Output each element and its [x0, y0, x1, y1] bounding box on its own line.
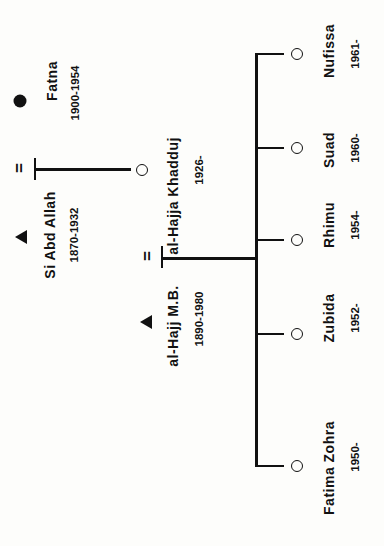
child-branch-rhimu — [256, 239, 284, 241]
child-name-fatima-zohra: Fatima Zohra — [321, 421, 337, 515]
person-dates-khadduj: 1926- — [193, 155, 205, 184]
male-symbol-si-abd-allah — [15, 230, 27, 244]
female-deceased-symbol-fatna — [14, 95, 27, 108]
person-name-si-abd-allah: Si Abd Allah — [42, 191, 58, 278]
child-branch-zubida — [256, 333, 284, 335]
child-dates-suad: 1960- — [349, 133, 361, 162]
descent-line-gen1 — [35, 168, 131, 171]
person-dates-al-hajj: 1890-1980 — [193, 292, 205, 347]
person-dates-si-abd-allah: 1870-1932 — [68, 208, 80, 263]
child-branch-nufissa — [256, 53, 284, 55]
female-symbol-khadduj — [136, 164, 148, 176]
female-symbol-nufissa — [291, 48, 303, 60]
child-dates-zubida: 1952- — [349, 303, 361, 332]
marriage-symbol-gen1: = — [10, 163, 30, 173]
male-symbol-al-hajj — [140, 315, 152, 329]
sibling-bar — [255, 53, 258, 467]
female-symbol-rhimu — [291, 234, 303, 246]
person-name-khadduj: al-Hajja Khadduj — [165, 137, 181, 255]
child-name-rhimu: Rhimu — [321, 202, 337, 248]
child-name-suad: Suad — [321, 132, 337, 168]
female-symbol-zubida — [291, 328, 303, 340]
female-symbol-suad — [291, 142, 303, 154]
child-branch-suad — [256, 147, 284, 149]
child-branch-fatima-zohra — [256, 465, 284, 467]
descent-line-gen2 — [161, 257, 257, 260]
marriage-tick-gen1 — [34, 158, 36, 180]
female-symbol-fatima-zohra — [291, 460, 303, 472]
marriage-symbol-gen2: = — [138, 251, 158, 261]
child-dates-nufissa: 1961- — [349, 39, 361, 68]
child-dates-fatima-zohra: 1950- — [349, 442, 361, 471]
child-dates-rhimu: 1954- — [349, 210, 361, 239]
child-name-zubida: Zubida — [321, 294, 337, 343]
person-dates-fatna: 1900-1954 — [69, 66, 81, 121]
child-name-nufissa: Nufissa — [321, 24, 337, 78]
person-name-al-hajj: al-Hajj M.B. — [165, 285, 181, 366]
person-name-fatna: Fatna — [44, 61, 60, 101]
